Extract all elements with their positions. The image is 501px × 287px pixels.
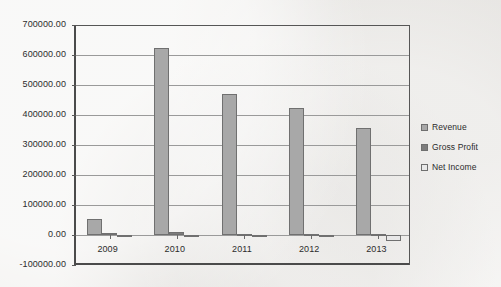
legend-swatch-revenue — [421, 124, 428, 131]
y-axis-tick-label: 300000.00 — [23, 139, 66, 149]
x-axis-tick-mark — [177, 235, 178, 239]
bar — [356, 128, 371, 235]
bar — [289, 108, 304, 235]
bar — [252, 235, 267, 237]
bar — [87, 219, 102, 236]
bar — [386, 235, 401, 241]
y-axis-tick-mark — [72, 235, 76, 236]
legend-swatch-net-income — [421, 164, 428, 171]
plot-border-top — [74, 25, 410, 26]
legend-label: Revenue — [432, 122, 467, 132]
x-axis-tick-mark — [244, 235, 245, 239]
x-axis-tick-label: 2009 — [83, 244, 133, 254]
legend-swatch-gross-profit — [421, 144, 428, 151]
y-axis-tick-label: 500000.00 — [23, 79, 66, 89]
legend-item[interactable]: Net Income — [421, 159, 499, 175]
x-axis-tick-mark — [110, 235, 111, 239]
y-axis-tick-mark — [72, 145, 76, 146]
legend-label: Net Income — [432, 162, 476, 172]
gridline — [76, 115, 410, 116]
chart-legend: RevenueGross ProfitNet Income — [421, 119, 499, 179]
y-axis-tick-label: -100000.00 — [19, 259, 66, 269]
bar-chart: 700000.00600000.00500000.00400000.003000… — [0, 0, 501, 287]
gridline — [76, 85, 410, 86]
legend-item[interactable]: Revenue — [421, 119, 499, 135]
x-axis-tick-label: 2010 — [150, 244, 200, 254]
y-axis-tick-label: 400000.00 — [23, 109, 66, 119]
y-axis-tick-label: 0.00 — [48, 229, 66, 239]
y-axis-tick-label: 200000.00 — [23, 169, 66, 179]
bar — [319, 235, 334, 237]
y-axis-tick-mark — [72, 115, 76, 116]
x-axis-tick-mark — [311, 235, 312, 239]
y-axis-tick-label: 100000.00 — [23, 199, 66, 209]
legend-label: Gross Profit — [432, 142, 478, 152]
x-axis-tick-label: 2012 — [284, 244, 334, 254]
y-axis-tick-mark — [72, 205, 76, 206]
bar — [117, 235, 132, 237]
bar — [184, 235, 199, 237]
y-axis-tick-mark — [72, 175, 76, 176]
plot-area — [74, 25, 410, 265]
y-axis-tick-mark — [72, 265, 76, 266]
y-axis-tick-label: 600000.00 — [23, 49, 66, 59]
bar — [154, 48, 169, 236]
gridline — [76, 55, 410, 56]
y-axis-tick-mark — [72, 85, 76, 86]
y-axis-tick-mark — [72, 55, 76, 56]
bar — [222, 94, 237, 235]
plot-border-right — [409, 25, 410, 265]
x-axis-tick-label: 2011 — [217, 244, 267, 254]
y-axis-tick-label: 700000.00 — [23, 19, 66, 29]
legend-item[interactable]: Gross Profit — [421, 139, 499, 155]
x-axis-tick-mark — [378, 235, 379, 239]
x-axis-tick-label: 2013 — [351, 244, 401, 254]
